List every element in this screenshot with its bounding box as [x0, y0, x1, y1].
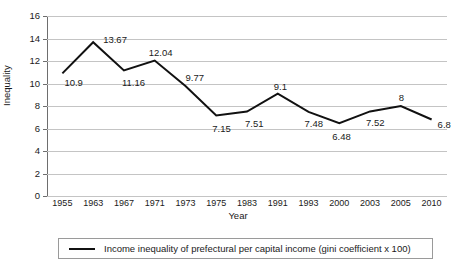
data-point-label: 7.48: [305, 119, 324, 129]
y-axis-tick-label: 10: [29, 79, 40, 89]
legend-label: Income inequality of prefectural per cap…: [104, 244, 411, 254]
x-axis-tick-label: 1975: [206, 199, 226, 208]
x-axis-tick-label: 2005: [391, 199, 411, 208]
data-point-label: 7.15: [212, 124, 231, 134]
x-axis-title: Year: [0, 211, 462, 221]
chart-container: Inequality 0246810121416 195519631967197…: [0, 0, 462, 270]
y-axis-title: Inequality: [2, 65, 12, 106]
data-point-label: 6.8: [438, 120, 451, 130]
y-axis-tick-label: 6: [35, 124, 40, 134]
x-axis-tick-label: 1967: [114, 199, 134, 208]
x-axis-tick-label: 1955: [52, 199, 72, 208]
x-axis-tick-label: 1983: [237, 199, 257, 208]
y-axis-tick-label: 8: [35, 101, 40, 111]
data-point-label: 10.9: [64, 78, 83, 88]
x-axis-tick-label: 1993: [299, 199, 319, 208]
y-axis-tick-label: 0: [35, 191, 40, 201]
y-axis-tick-label: 4: [35, 146, 40, 156]
y-axis-tick-label: 12: [29, 56, 40, 66]
y-axis-tick-label: 2: [35, 169, 40, 179]
data-point-label: 9.77: [185, 73, 204, 83]
x-axis-tick-label: 1991: [268, 199, 288, 208]
series-polyline: [62, 42, 431, 123]
x-axis-tick-label: 2003: [360, 199, 380, 208]
y-axis-tick-label: 14: [29, 34, 40, 44]
x-axis-tick-label: 1973: [175, 199, 195, 208]
data-point-label: 11.16: [122, 78, 145, 88]
gridline: [47, 196, 447, 197]
x-axis-tick-label: 1971: [145, 199, 165, 208]
data-point-label: 6.48: [332, 132, 351, 142]
legend-line-swatch: [69, 248, 95, 250]
y-axis-tick-mark: [43, 196, 47, 197]
legend: Income inequality of prefectural per cap…: [58, 238, 433, 259]
data-point-label: 12.04: [149, 48, 173, 58]
x-axis-tick-label: 2000: [329, 199, 349, 208]
data-point-label: 13.67: [103, 35, 127, 45]
x-axis-tick-label: 1963: [83, 199, 103, 208]
data-point-label: 8: [399, 93, 404, 103]
x-axis-tick-label: 2010: [422, 199, 442, 208]
data-point-label: 7.52: [366, 118, 385, 128]
y-axis-tick-label: 16: [29, 11, 40, 21]
data-point-label: 9.1: [274, 82, 287, 92]
data-point-label: 7.51: [245, 119, 264, 129]
